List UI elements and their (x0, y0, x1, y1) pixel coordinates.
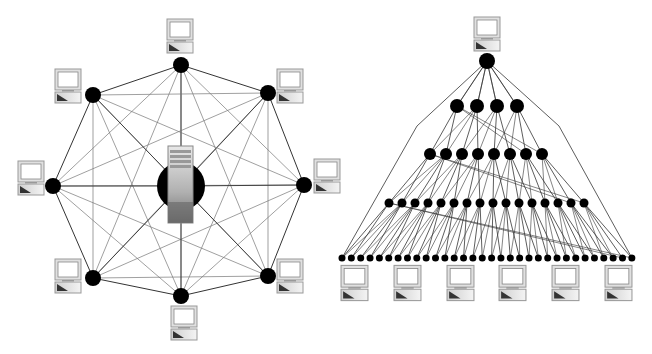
computer-icon (474, 17, 500, 51)
tree-node (541, 199, 550, 208)
tree-node (456, 148, 468, 160)
tree-node (357, 255, 364, 262)
tree-node (339, 255, 346, 262)
tree-node (567, 199, 576, 208)
computer-icon (277, 69, 303, 103)
tree-node (488, 255, 495, 262)
tree-node (563, 255, 570, 262)
tree-node (526, 255, 533, 262)
tree-node (528, 199, 537, 208)
computer-icon (447, 265, 474, 300)
tree-node (432, 255, 439, 262)
tree-node (488, 148, 500, 160)
tree-node (460, 255, 467, 262)
tree-node (385, 199, 394, 208)
mesh-node (45, 178, 61, 194)
tree-node (413, 255, 420, 262)
computer-icon (277, 259, 303, 293)
tree-node (398, 199, 407, 208)
tree-node (395, 255, 402, 262)
computer-icon (167, 19, 193, 53)
computer-icon (18, 161, 44, 195)
tree-node (504, 148, 516, 160)
tree-node (582, 255, 589, 262)
tree-node (591, 255, 598, 262)
tree-node (510, 99, 524, 113)
tree-node (450, 199, 459, 208)
tree-node (535, 255, 542, 262)
tree-node (348, 255, 355, 262)
computer-icon (171, 306, 197, 340)
tree-node (424, 199, 433, 208)
network-topology-diagrams (0, 0, 652, 354)
tree-node (376, 255, 383, 262)
tree-node (423, 255, 430, 262)
tree-node (502, 199, 511, 208)
mesh-node (260, 85, 276, 101)
tree-node (404, 255, 411, 262)
computer-icon (314, 159, 340, 193)
tree-node (516, 255, 523, 262)
tree-node (628, 255, 635, 262)
mesh-node (85, 270, 101, 286)
tree-node (479, 255, 486, 262)
tree-node (490, 99, 504, 113)
tree-node (441, 255, 448, 262)
tree-node (554, 199, 563, 208)
tree-node (544, 255, 551, 262)
computer-icon (552, 265, 579, 300)
tree-node (507, 255, 514, 262)
tree-node (536, 148, 548, 160)
mesh-network (18, 19, 340, 340)
tree-node (497, 255, 504, 262)
tree-network (339, 17, 636, 301)
tree-node (476, 199, 485, 208)
mesh-node (173, 57, 189, 73)
mesh-node (85, 87, 101, 103)
tree-node (437, 199, 446, 208)
tree-node (554, 255, 561, 262)
computer-icon (341, 265, 368, 300)
tree-node (600, 255, 607, 262)
tree-node (619, 255, 626, 262)
tree-node (470, 99, 484, 113)
tree-node (367, 255, 374, 262)
tree-node (489, 199, 498, 208)
tree-node (424, 148, 436, 160)
computer-icon (605, 265, 632, 300)
tree-node (385, 255, 392, 262)
tree-node (411, 199, 420, 208)
server-icon (168, 146, 193, 223)
tree-node (515, 199, 524, 208)
computer-icon (55, 259, 81, 293)
mesh-node (260, 268, 276, 284)
tree-node (479, 53, 495, 69)
tree-node (610, 255, 617, 262)
computer-icon (499, 265, 526, 300)
tree-node (440, 148, 452, 160)
tree-node (469, 255, 476, 262)
mesh-node (296, 177, 312, 193)
tree-node (450, 99, 464, 113)
computer-icon (55, 69, 81, 103)
tree-node (472, 148, 484, 160)
tree-node (451, 255, 458, 262)
tree-node (580, 199, 589, 208)
tree-node (463, 199, 472, 208)
tree-node (572, 255, 579, 262)
tree-node (520, 148, 532, 160)
mesh-node (173, 288, 189, 304)
computer-icon (394, 265, 421, 300)
